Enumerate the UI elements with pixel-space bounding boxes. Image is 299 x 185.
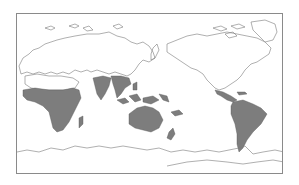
antarctica-lower-outline (167, 160, 283, 166)
north-africa-outline (25, 74, 79, 90)
arctic-islands (45, 24, 123, 31)
madagascar-shaded (79, 116, 83, 128)
map-frame (16, 13, 283, 174)
north-america-outline (167, 32, 271, 90)
new-guinea-shaded (143, 96, 159, 104)
australia-shaded (129, 106, 163, 132)
africa-shaded (23, 88, 81, 132)
world-map (17, 14, 283, 174)
southeast-asia-shaded (111, 76, 131, 98)
eurasia-outline (19, 32, 155, 76)
new-zealand-shaded (167, 128, 175, 140)
india-shaded (93, 76, 111, 100)
pacific-islands-shaded (159, 94, 183, 116)
south-america-shaded (231, 100, 267, 152)
